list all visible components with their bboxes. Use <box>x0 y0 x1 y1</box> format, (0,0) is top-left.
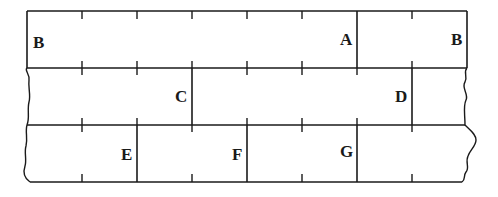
label-d: D <box>395 87 407 106</box>
label-b-right: B <box>451 30 462 49</box>
top-ticks <box>82 11 412 19</box>
label-a: A <box>340 30 353 49</box>
row1-edges <box>27 11 467 68</box>
label-g: G <box>340 142 353 161</box>
label-b-left: B <box>33 33 44 52</box>
label-f: F <box>232 145 242 164</box>
label-c: C <box>175 87 187 106</box>
label-e: E <box>121 145 132 164</box>
brick-course-diagram: B A B C D E F G <box>0 0 498 197</box>
